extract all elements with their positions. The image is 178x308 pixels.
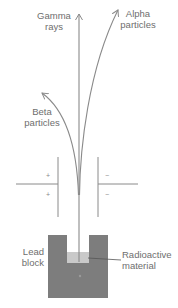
lead-block-label: Lead block xyxy=(10,247,44,268)
negative-sign-bottom: − xyxy=(105,191,109,198)
beta-particles-label: Beta particles xyxy=(20,107,64,128)
material-label-line1: Radioactive xyxy=(122,250,172,261)
gamma-rays-label: Gamma rays xyxy=(34,11,74,32)
block-mark xyxy=(79,275,81,277)
material-label-line2: material xyxy=(122,261,172,272)
negative-sign-top: − xyxy=(105,172,109,179)
alpha-label-line2: particles xyxy=(115,20,161,31)
lead-label-line2: block xyxy=(10,258,44,269)
alpha-label-line1: Alpha xyxy=(115,9,161,20)
lead-label-line1: Lead xyxy=(10,247,44,258)
alpha-particles-label: Alpha particles xyxy=(115,9,161,30)
positive-sign-top: + xyxy=(46,172,50,179)
positive-sign-bottom: + xyxy=(46,191,50,198)
radioactive-material-label: Radioactive material xyxy=(122,250,172,271)
radioactive-material xyxy=(67,252,89,263)
lead-block xyxy=(48,235,108,298)
gamma-label-line2: rays xyxy=(34,22,74,33)
beta-label-line2: particles xyxy=(20,118,64,129)
alpha-particle-path xyxy=(80,10,119,195)
beta-label-line1: Beta xyxy=(20,107,64,118)
gamma-label-line1: Gamma xyxy=(34,11,74,22)
